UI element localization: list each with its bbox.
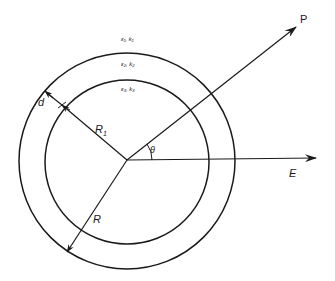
diagram-canvas: ε₁, k₁ ε₂, k₂ ε₃, k₃ d R1 R θ P E bbox=[0, 0, 335, 281]
region-shell-label: ε₂, k₂ bbox=[121, 61, 135, 67]
outer-radius-label: R bbox=[93, 213, 101, 225]
thickness-arrow-in bbox=[47, 93, 62, 105]
thickness-label: d bbox=[38, 96, 45, 108]
inner-radius-symbol: R bbox=[95, 123, 103, 135]
point-label: P bbox=[300, 13, 307, 25]
inner-radius-subscript: 1 bbox=[103, 130, 107, 137]
point-direction-arrow bbox=[127, 27, 296, 160]
field-arrow bbox=[127, 158, 316, 160]
angle-label: θ bbox=[150, 145, 155, 155]
region-inner-label: ε₃, k₃ bbox=[121, 86, 135, 92]
diagram-svg: ε₁, k₁ ε₂, k₂ ε₃, k₃ d R1 R θ P E bbox=[0, 0, 335, 281]
inner-radius-label: R1 bbox=[95, 123, 107, 137]
field-label: E bbox=[289, 167, 297, 179]
inner-circle bbox=[45, 80, 209, 244]
region-outer-label: ε₁, k₁ bbox=[121, 36, 134, 42]
